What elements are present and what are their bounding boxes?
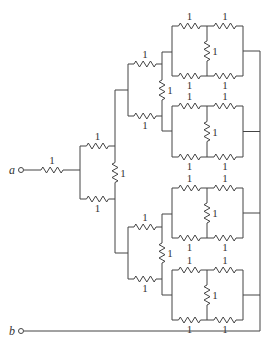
- resistor: [128, 224, 162, 230]
- resistor-label: 1: [212, 289, 218, 301]
- resistor: [172, 267, 207, 273]
- resistor-label: 1: [167, 84, 173, 96]
- resistor-label: 1: [95, 202, 101, 214]
- resistor-label: 1: [212, 126, 218, 138]
- resistor: [207, 267, 243, 273]
- circuit-diagram: ab111111111111111111111111111111: [0, 0, 274, 343]
- resistor: [207, 23, 243, 29]
- resistor-label: 1: [222, 90, 228, 102]
- resistor: [159, 227, 165, 279]
- resistor-label: 1: [212, 45, 218, 57]
- resistor-label: 1: [142, 211, 148, 223]
- resistor-label: 1: [120, 167, 126, 179]
- terminal-a: [19, 168, 24, 173]
- resistor: [204, 106, 210, 157]
- resistor: [112, 146, 118, 199]
- resistor-label: 1: [212, 207, 218, 219]
- resistor-label: 1: [95, 130, 101, 142]
- resistor-label: 1: [49, 154, 55, 166]
- resistor: [207, 185, 243, 191]
- resistor-label: 1: [187, 323, 193, 335]
- resistor-label: 1: [222, 160, 228, 172]
- resistor: [159, 64, 165, 116]
- resistor-label: 1: [222, 254, 228, 266]
- resistor: [207, 103, 243, 109]
- resistor: [204, 188, 210, 238]
- resistor-label: 1: [142, 48, 148, 60]
- terminal-b-label: b: [9, 324, 15, 338]
- resistor-label: 1: [187, 254, 193, 266]
- resistor-label: 1: [187, 10, 193, 22]
- resistor-label: 1: [167, 247, 173, 259]
- resistor: [172, 185, 207, 191]
- resistor-label: 1: [187, 90, 193, 102]
- resistor: [204, 270, 210, 320]
- resistor: [204, 26, 210, 76]
- resistor-label: 1: [187, 172, 193, 184]
- resistor: [24, 167, 80, 173]
- resistor-label: 1: [222, 172, 228, 184]
- resistor-label: 1: [222, 241, 228, 253]
- resistor-label: 1: [142, 282, 148, 294]
- resistor: [172, 23, 207, 29]
- resistor: [80, 143, 115, 149]
- resistor-label: 1: [222, 10, 228, 22]
- terminal-b: [19, 329, 24, 334]
- resistor-label: 1: [142, 119, 148, 131]
- resistor-label: 1: [222, 323, 228, 335]
- terminal-a-label: a: [9, 163, 15, 177]
- resistor-label: 1: [187, 241, 193, 253]
- resistor-label: 1: [187, 160, 193, 172]
- resistor: [128, 61, 162, 67]
- resistor: [172, 103, 207, 109]
